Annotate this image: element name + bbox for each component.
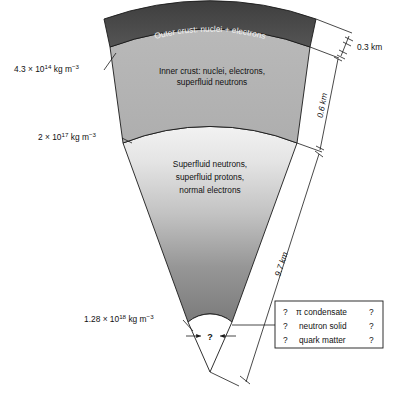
inner-crust-label-line1: Inner crust: nuclei, electrons,	[159, 66, 265, 76]
dimension-label-9-7km: 9.7 km	[273, 251, 290, 278]
speculation-row-2-right-mark: ?	[369, 335, 374, 345]
core-label-line3: normal electrons	[179, 185, 240, 195]
inner-core-question-label: ?	[207, 332, 213, 342]
speculation-row-1-label: neutron solid	[299, 321, 347, 331]
speculation-row-0-label: π condensate	[296, 307, 347, 317]
core-label: Superfluid neutrons, superfluid protons,…	[173, 159, 247, 195]
core-label-line2: superfluid protons,	[176, 172, 244, 182]
speculation-box: ? π condensate ? ? neutron solid ? ? qua…	[232, 301, 383, 348]
speculation-row-1-right-mark: ?	[369, 321, 374, 331]
speculation-row-0-left-mark: ?	[283, 307, 288, 317]
speculation-row-1-left-mark: ?	[283, 321, 288, 331]
neutron-star-diagram: Outer crust: nuclei + electrons Inner cr…	[0, 0, 413, 400]
speculation-row-2-left-mark: ?	[283, 335, 288, 345]
svg-text:2 × 1017 kg m−3: 2 × 1017 kg m−3	[38, 131, 97, 142]
dimension-outer-crust-thickness: 0.3 km	[337, 36, 382, 59]
diagram-canvas: Outer crust: nuclei + electrons Inner cr…	[0, 0, 413, 400]
density-label-outer-inner: 4.3 × 1014 kg m−3	[14, 53, 116, 74]
speculation-row-0-right-mark: ?	[369, 307, 374, 317]
density-label-crust-core: 2 × 1017 kg m−3	[38, 131, 132, 143]
svg-text:4.3 × 1014 kg m−3: 4.3 × 1014 kg m−3	[14, 63, 80, 74]
layer-inner-core	[188, 314, 232, 372]
core-label-line1: Superfluid neutrons,	[173, 159, 247, 169]
inner-crust-label-line2: superfluid neutrons	[177, 77, 248, 87]
svg-text:1.28 × 1018 kg m−3: 1.28 × 1018 kg m−3	[84, 313, 154, 324]
dimension-label-0-3km: 0.3 km	[357, 42, 382, 52]
layer-core	[123, 126, 297, 322]
density-label-inner-core: 1.28 × 1018 kg m−3	[84, 313, 193, 331]
speculation-row-2-label: quark matter	[299, 335, 346, 345]
dimension-inner-crust-thickness: 0.6 km	[315, 57, 342, 150]
